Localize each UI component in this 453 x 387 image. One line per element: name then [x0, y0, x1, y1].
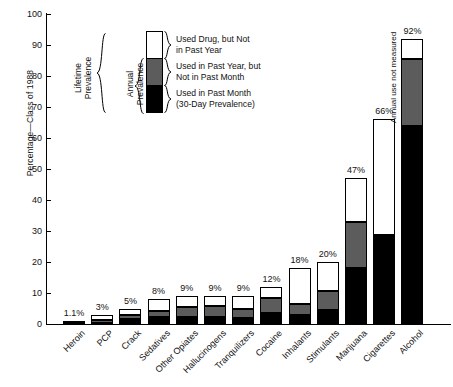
bar-marijuana: 47%	[345, 14, 367, 324]
x-axis-label: Crack	[90, 328, 144, 382]
bar-segment	[204, 317, 226, 324]
bar-segment	[232, 309, 254, 318]
y-axis-tick	[46, 107, 51, 108]
bar-segment	[91, 315, 113, 320]
y-axis-tick	[46, 262, 51, 263]
bar-segment	[260, 287, 282, 298]
lifetime-prevalence-label: Lifetime Prevalence	[73, 33, 93, 123]
legend-brace-black	[164, 85, 172, 113]
y-axis-tick	[46, 231, 51, 232]
bar-segment	[204, 296, 226, 306]
bar-cigarettes: 66%Annual use not measured	[373, 14, 395, 324]
y-axis-tick	[46, 45, 51, 46]
legend-label-black-line2: (30-Day Prevalence)	[176, 99, 255, 110]
y-axis-tick-label: 80	[14, 72, 42, 81]
bar-segment	[119, 315, 141, 319]
bar-value-label: 20%	[305, 250, 351, 259]
chart-container: Percentage—Class of 1988 010203040506070…	[0, 0, 453, 387]
legend-label-white-line1: Used Drug, but Not	[176, 34, 250, 45]
bar-segment	[176, 317, 198, 324]
bar-value-label: 92%	[389, 27, 435, 36]
bar-segment	[119, 319, 141, 324]
legend-swatch-bar	[146, 31, 163, 113]
legend-swatch-white	[146, 31, 163, 59]
bar-segment	[317, 310, 339, 324]
bar-segment	[401, 39, 423, 59]
y-axis-tick-label: 50	[14, 165, 42, 174]
bar-segment	[232, 318, 254, 324]
bar-segment	[204, 306, 226, 317]
bar-segment	[91, 323, 113, 325]
bar-segment	[345, 222, 367, 269]
legend-brace-white	[164, 31, 172, 59]
legend-label-black-line1: Used in Past Month	[176, 88, 251, 99]
bar-segment	[373, 119, 395, 235]
legend-label-gray-line2: Not in Past Month	[176, 72, 244, 83]
legend-swatch-gray	[146, 58, 163, 86]
y-axis-title: Percentage—Class of 1988	[25, 33, 35, 213]
bar-value-label: 66%	[361, 107, 407, 116]
bar-segment	[401, 59, 423, 126]
bar-segment	[148, 299, 170, 310]
y-axis-tick-label: 40	[14, 196, 42, 205]
legend-label-gray-line1: Used in Past Year, but	[176, 61, 261, 72]
x-axis-label: Marijuana	[315, 328, 369, 382]
y-axis-tick	[46, 200, 51, 201]
bar-segment	[63, 321, 85, 323]
y-axis-tick	[46, 76, 51, 77]
y-axis-tick	[46, 324, 51, 325]
legend-label-white-line2: in Past Year	[176, 45, 222, 56]
y-axis-tick-label: 60	[14, 134, 42, 143]
y-axis-tick	[46, 293, 51, 294]
x-axis-label: Other Opiates	[146, 328, 200, 382]
x-axis-label: Cocaine	[231, 328, 285, 382]
bar-segment	[63, 322, 85, 324]
bar-value-label: 5%	[107, 297, 153, 306]
y-axis-tick-label: 30	[14, 227, 42, 236]
y-axis-tick-label: 20	[14, 258, 42, 267]
y-axis-tick-label: 90	[14, 41, 42, 50]
legend-swatch-black	[146, 85, 163, 113]
x-axis-label: Heroin	[33, 328, 87, 382]
bar-segment	[148, 311, 170, 317]
bar-inhalants: 18%	[289, 14, 311, 324]
legend-brace-gray	[164, 58, 172, 86]
bar-segment	[176, 296, 198, 307]
x-axis-label: Hallucinogens	[174, 328, 228, 382]
bar-segment	[317, 291, 339, 309]
bar-segment	[289, 304, 311, 315]
bar-segment	[345, 178, 367, 221]
y-axis-tick	[46, 138, 51, 139]
bar-segment	[232, 296, 254, 309]
y-axis-tick-label: 10	[14, 289, 42, 298]
y-axis-tick-label: 70	[14, 103, 42, 112]
bar-value-label: 12%	[248, 275, 294, 284]
bar-segment	[289, 315, 311, 324]
x-axis-label: Alcohol	[372, 328, 426, 382]
y-axis-tick	[46, 14, 51, 15]
bar-segment	[91, 320, 113, 323]
y-axis-tick-label: 0	[14, 320, 42, 329]
lifetime-prevalence-brace	[96, 33, 106, 113]
bar-segment	[401, 126, 423, 324]
bar-value-label: 47%	[333, 166, 379, 175]
y-axis-tick	[46, 169, 51, 170]
bar-value-label: 9%	[220, 284, 266, 293]
bar-segment	[373, 235, 395, 324]
annotation-annual-use-not-measured: Annual use not measured	[389, 32, 398, 123]
bar-alcohol: 92%	[401, 14, 423, 324]
y-axis-tick-label: 100	[14, 10, 42, 19]
bar-cocaine: 12%	[260, 14, 282, 324]
bar-segment	[176, 307, 198, 317]
bar-segment	[289, 268, 311, 304]
bar-segment	[260, 298, 282, 313]
annual-prevalence-label: Annual Prevalence	[125, 54, 145, 114]
bar-segment	[317, 262, 339, 291]
bar-segment	[148, 317, 170, 324]
bar-segment	[119, 309, 141, 315]
x-axis-label: Stimulants	[287, 328, 341, 382]
bar-segment	[260, 313, 282, 324]
bar-segment	[345, 268, 367, 324]
